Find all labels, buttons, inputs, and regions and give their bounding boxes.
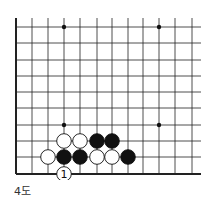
white-stone <box>73 134 88 149</box>
white-stone <box>41 150 56 165</box>
black-stone <box>57 150 72 165</box>
black-stone <box>73 150 88 165</box>
white-stone <box>57 134 72 149</box>
white-stone <box>105 150 120 165</box>
diagram-caption: 4도 <box>14 182 31 198</box>
black-stone <box>90 134 105 149</box>
star-point <box>157 123 161 127</box>
move-number-label: 1 <box>61 168 68 180</box>
go-board: 1 <box>0 0 211 180</box>
white-stone <box>90 150 105 165</box>
black-stone <box>105 134 120 149</box>
star-point <box>157 25 161 29</box>
star-point <box>62 25 66 29</box>
black-stone <box>121 150 136 165</box>
star-point <box>62 123 66 127</box>
